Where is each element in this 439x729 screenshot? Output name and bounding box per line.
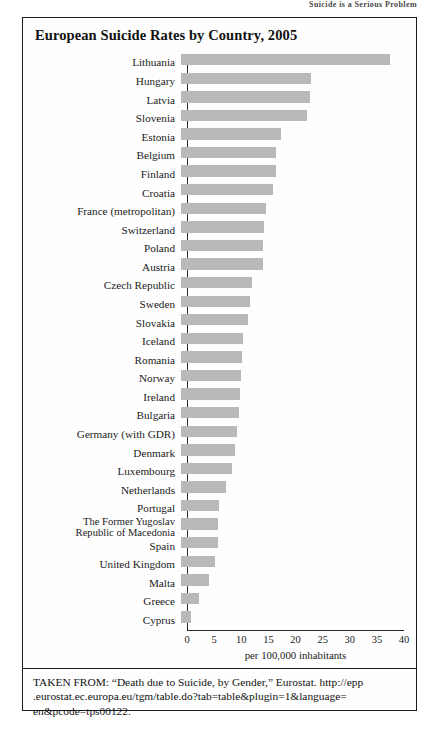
chart-bar-row: Austria bbox=[23, 258, 416, 277]
bar-track bbox=[181, 296, 416, 315]
bar bbox=[181, 277, 252, 288]
bar-category-label: Netherlands bbox=[23, 485, 181, 497]
x-axis-title: per 100,000 inhabitants bbox=[187, 649, 404, 661]
bar-track bbox=[181, 518, 416, 537]
chart-bar-row: Iceland bbox=[23, 333, 416, 352]
chart-bar-row: Estonia bbox=[23, 128, 416, 147]
chart-bar-row: Latvia bbox=[23, 91, 416, 110]
bar bbox=[181, 556, 215, 567]
chart-bar-row: Slovakia bbox=[23, 314, 416, 333]
bar-track bbox=[181, 258, 416, 277]
chart-bar-row: Ireland bbox=[23, 388, 416, 407]
bar-category-label: Austria bbox=[23, 262, 181, 274]
bar-track bbox=[181, 444, 416, 463]
bar bbox=[181, 296, 250, 307]
bar-category-label: Bulgaria bbox=[23, 410, 181, 422]
bar-track bbox=[181, 556, 416, 575]
bar-track bbox=[181, 463, 416, 482]
page-running-header: Suicide is a Serious Problem bbox=[0, 0, 439, 14]
source-divider bbox=[23, 668, 416, 669]
chart-bar-row: Norway bbox=[23, 370, 416, 389]
bar bbox=[181, 203, 266, 214]
bar-track bbox=[181, 203, 416, 222]
chart-bar-row: Switzerland bbox=[23, 221, 416, 240]
chart-bar-row: Sweden bbox=[23, 296, 416, 315]
bar-category-label: Finland bbox=[23, 169, 181, 181]
figure-frame: European Suicide Rates by Country, 2005 … bbox=[22, 17, 417, 711]
bar-track bbox=[181, 240, 416, 259]
bar bbox=[181, 481, 226, 492]
chart-bar-row: Spain bbox=[23, 537, 416, 556]
bar-track bbox=[181, 388, 416, 407]
bar bbox=[181, 184, 273, 195]
x-axis-line bbox=[187, 630, 404, 631]
x-tick-label: 25 bbox=[317, 634, 328, 645]
chart-bar-row: Czech Republic bbox=[23, 277, 416, 296]
bar-track bbox=[181, 165, 416, 184]
chart-bar-row: Croatia bbox=[23, 184, 416, 203]
bar-category-label: Croatia bbox=[23, 188, 181, 200]
x-tick-label: 40 bbox=[399, 634, 410, 645]
chart-bar-row: Slovenia bbox=[23, 110, 416, 129]
chart-bar-row: Cyprus bbox=[23, 611, 416, 630]
x-axis-tick-labels: 0510152025303540 bbox=[187, 634, 404, 648]
bar-category-label: Estonia bbox=[23, 132, 181, 144]
bar bbox=[181, 258, 263, 269]
chart-bar-row: Hungary bbox=[23, 73, 416, 92]
bar-category-label: Iceland bbox=[23, 336, 181, 348]
figure-title: European Suicide Rates by Country, 2005 bbox=[35, 27, 297, 44]
bar-category-label: Spain bbox=[23, 541, 181, 553]
bar-track bbox=[181, 314, 416, 333]
bar-category-label: Slovakia bbox=[23, 318, 181, 330]
bar bbox=[181, 73, 311, 84]
bar bbox=[181, 165, 276, 176]
bar-category-label: Romania bbox=[23, 355, 181, 367]
chart-bar-row: Belgium bbox=[23, 147, 416, 166]
bar bbox=[181, 91, 310, 102]
bar-category-label: Sweden bbox=[23, 299, 181, 311]
x-tick-label: 10 bbox=[236, 634, 247, 645]
bar-category-label: Malta bbox=[23, 578, 181, 590]
bar-category-label: Ireland bbox=[23, 392, 181, 404]
chart-bar-row: Luxembourg bbox=[23, 463, 416, 482]
bar bbox=[181, 388, 240, 399]
bar bbox=[181, 240, 263, 251]
chart-bar-row: Netherlands bbox=[23, 481, 416, 500]
bar bbox=[181, 518, 218, 529]
bar-category-label: Switzerland bbox=[23, 225, 181, 237]
chart-bar-row: The Former Yugoslav Republic of Macedoni… bbox=[23, 518, 416, 537]
bar-category-label: Hungary bbox=[23, 76, 181, 88]
bar-category-label: United Kingdom bbox=[23, 559, 181, 571]
chart-bar-row: Finland bbox=[23, 165, 416, 184]
bar-track bbox=[181, 500, 416, 519]
bar-track bbox=[181, 481, 416, 500]
bar bbox=[181, 221, 264, 232]
bar-track bbox=[181, 574, 416, 593]
bar-track bbox=[181, 184, 416, 203]
bar-track bbox=[181, 110, 416, 129]
bar bbox=[181, 333, 243, 344]
bar-category-label: Portugal bbox=[23, 503, 181, 515]
bar bbox=[181, 537, 218, 548]
bar bbox=[181, 407, 239, 418]
chart-bar-row: Poland bbox=[23, 240, 416, 259]
bar bbox=[181, 314, 248, 325]
bar-track bbox=[181, 537, 416, 556]
bar-track bbox=[181, 407, 416, 426]
bar bbox=[181, 110, 307, 121]
chart-bar-row: Greece bbox=[23, 593, 416, 612]
x-tick-label: 35 bbox=[372, 634, 383, 645]
chart-bar-row: Lithuania bbox=[23, 54, 416, 73]
bar bbox=[181, 574, 209, 585]
bar-category-label: The Former Yugoslav Republic of Macedoni… bbox=[23, 517, 181, 539]
chart-bar-row: Portugal bbox=[23, 500, 416, 519]
bar-category-label: Latvia bbox=[23, 95, 181, 107]
bar-track bbox=[181, 426, 416, 445]
bar bbox=[181, 444, 235, 455]
bar-category-label: Luxembourg bbox=[23, 466, 181, 478]
bar bbox=[181, 128, 281, 139]
bar-category-label: Germany (with GDR) bbox=[23, 429, 181, 441]
bar-chart-plot-area: LithuaniaHungaryLatviaSloveniaEstoniaBel… bbox=[23, 54, 416, 630]
bar-track bbox=[181, 73, 416, 92]
bar-track bbox=[181, 611, 416, 630]
